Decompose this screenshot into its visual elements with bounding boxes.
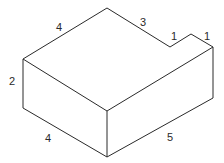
top-face-outline bbox=[23, 8, 213, 111]
label-bottom-left-edge: 4 bbox=[45, 133, 51, 144]
label-left-height: 2 bbox=[9, 76, 15, 87]
label-top-right-edge: 3 bbox=[140, 17, 146, 28]
label-notch-inner: 1 bbox=[171, 31, 177, 42]
label-bottom-right-edge: 5 bbox=[167, 132, 173, 143]
label-notch-outer: 1 bbox=[204, 31, 210, 42]
isometric-diagram: 4 3 1 1 2 4 5 bbox=[0, 0, 224, 163]
left-face bbox=[23, 59, 107, 157]
label-top-left-edge: 4 bbox=[56, 22, 62, 33]
block-drawing bbox=[0, 0, 224, 163]
right-face bbox=[107, 47, 213, 157]
